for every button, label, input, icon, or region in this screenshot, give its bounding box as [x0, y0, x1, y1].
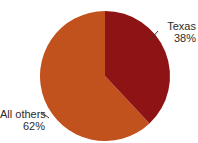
pie-label-all-others: All others 62% [0, 109, 45, 132]
pie-label-texas-value: 38% [158, 33, 196, 45]
pie-label-all-others-value: 62% [0, 121, 45, 133]
pie-label-all-others-name: All others [0, 109, 45, 121]
pie-label-texas: Texas 38% [158, 21, 196, 44]
pie-label-texas-name: Texas [158, 21, 196, 33]
pie-chart-figure: Texas 38% All others 62% [0, 0, 198, 143]
